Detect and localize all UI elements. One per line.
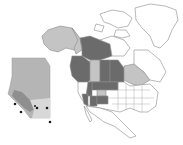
region-montana-dakota: [92, 82, 118, 90]
region-colorado: [97, 96, 108, 104]
inset-marker: [34, 105, 36, 107]
map-svg: [0, 0, 183, 145]
inset-marker: [49, 121, 52, 124]
inset-marker: [14, 103, 17, 106]
region-british-columbia: [70, 56, 90, 84]
region-manitoba: [110, 60, 124, 82]
region-nevada: [82, 94, 88, 106]
region-wyoming: [97, 90, 106, 96]
north-america-map: [0, 0, 183, 145]
inset-marker: [46, 107, 49, 110]
region-saskatchewan: [100, 60, 110, 82]
alberta-inset: [8, 58, 51, 123]
inset-marker: [20, 111, 23, 114]
region-mexico: [86, 106, 136, 138]
region-alberta: [90, 60, 100, 82]
region-greenland: [135, 4, 178, 48]
inset-marker: [36, 107, 39, 110]
region-utah: [90, 96, 97, 106]
region-arctic-islands: [94, 10, 132, 38]
